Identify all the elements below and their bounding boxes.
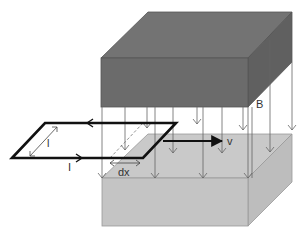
bottom-magnet xyxy=(102,134,292,226)
top-magnet xyxy=(101,12,292,107)
field-label: B xyxy=(256,98,263,110)
length-label: l xyxy=(47,137,49,149)
dx-label: dx xyxy=(118,166,130,178)
length-arrow xyxy=(30,127,57,156)
current-label: I xyxy=(68,161,71,173)
velocity-label: v xyxy=(227,135,233,147)
faraday-loop-diagram: B v l I dx xyxy=(0,0,305,238)
